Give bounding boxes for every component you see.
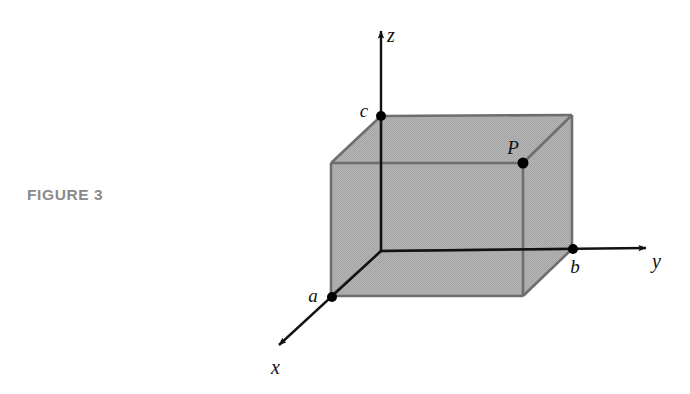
axis-label-x: x [270, 356, 280, 378]
box-front-face [331, 163, 523, 296]
coordinate-box-diagram: z y x a b c P [0, 0, 690, 394]
point-marker-b[interactable] [568, 244, 578, 254]
axis-label-y: y [650, 250, 661, 273]
point-label-P: P [506, 137, 519, 158]
point-marker-c[interactable] [376, 111, 386, 121]
point-label-c: c [360, 100, 369, 121]
point-marker-a[interactable] [327, 292, 337, 302]
axis-label-z: z [386, 24, 395, 46]
figure-container: FIGURE 3 [0, 0, 690, 394]
point-label-b: b [570, 256, 580, 277]
point-marker-P[interactable] [518, 158, 529, 169]
box-edge-back-top [381, 115, 572, 116]
point-label-a: a [308, 285, 318, 306]
box-solid [331, 115, 572, 296]
